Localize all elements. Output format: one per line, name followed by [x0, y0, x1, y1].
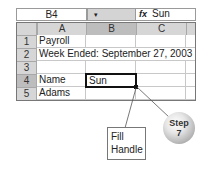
fill-handle-callout: Fill Handle [107, 127, 146, 160]
callout-line-1: Fill [111, 130, 142, 143]
step-badge: Step 7 [163, 112, 195, 144]
callout-lines [0, 0, 209, 178]
step-label: Step [163, 118, 195, 128]
callout-line-2: Handle [111, 143, 142, 156]
step-number: 7 [163, 128, 195, 138]
